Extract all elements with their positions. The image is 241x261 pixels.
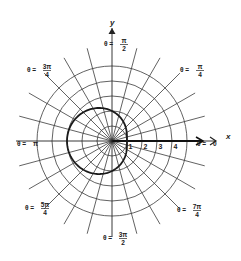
y-axis-label: y (109, 18, 115, 27)
svg-text:5π: 5π (41, 201, 50, 208)
y-arrowhead-icon (109, 28, 116, 34)
grid-spoke (87, 141, 112, 234)
svg-text:0: 0 (213, 140, 217, 147)
angle-label-theta-pi-4: θ = π4 (180, 63, 204, 78)
angle-label-theta-3pi-2: θ = 3π2 (103, 231, 127, 246)
svg-text:4: 4 (45, 71, 49, 78)
grid-spoke (112, 73, 180, 141)
svg-text:π: π (122, 37, 127, 44)
svg-text:θ =: θ = (27, 66, 36, 73)
svg-text:π: π (33, 140, 38, 147)
radius-tick-label: 2 (144, 143, 148, 150)
angle-label-theta-7pi-4: θ = 7π4 (177, 203, 201, 218)
svg-text:4: 4 (198, 71, 202, 78)
grid-spoke (112, 141, 137, 234)
radius-tick-label: 1 (129, 143, 133, 150)
svg-text:θ =: θ = (177, 206, 186, 213)
x-axis-label: x (225, 132, 231, 141)
grid-spoke (44, 141, 112, 209)
svg-text:θ =: θ = (17, 140, 26, 147)
polar-graph: 1234 θ = 0θ = π4θ = π2θ = 3π4θ = πθ = 5π… (0, 0, 241, 261)
radius-tick-label: 3 (159, 143, 163, 150)
grid-spoke (112, 48, 137, 141)
grid-spoke (87, 48, 112, 141)
radius-tick-label: 4 (174, 143, 178, 150)
angle-label-theta-pi-2: θ = π2 (104, 37, 128, 52)
radius-tick-labels: 1234 (129, 143, 178, 150)
angle-label-theta-3pi-4: θ = 3π4 (27, 63, 51, 78)
svg-text:θ =: θ = (25, 204, 34, 211)
svg-text:θ =: θ = (103, 234, 112, 241)
svg-text:3π: 3π (43, 63, 52, 70)
svg-text:4: 4 (43, 209, 47, 216)
svg-text:7π: 7π (193, 203, 202, 210)
svg-text:3π: 3π (119, 231, 128, 238)
svg-text:π: π (198, 63, 203, 70)
grid-spoke (19, 116, 112, 141)
svg-text:2: 2 (121, 239, 125, 246)
svg-text:4: 4 (195, 211, 199, 218)
svg-text:θ =: θ = (197, 140, 206, 147)
grid-spoke (44, 73, 112, 141)
svg-text:2: 2 (122, 45, 126, 52)
svg-text:θ =: θ = (180, 66, 189, 73)
svg-text:θ =: θ = (104, 40, 113, 47)
angle-label-theta-5pi-4: θ = 5π4 (25, 201, 49, 216)
grid-spoke (112, 141, 180, 209)
